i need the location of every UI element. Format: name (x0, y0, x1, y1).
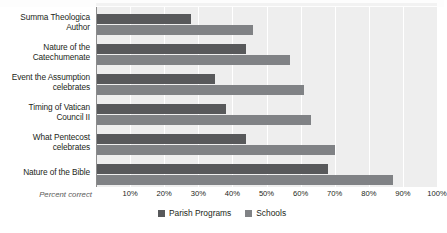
category-label-line: Nature of the (0, 42, 90, 52)
x-tick-label: 80% (361, 189, 376, 198)
title-band-sliver (96, 3, 437, 6)
category-label: Nature of the Bible (0, 167, 90, 177)
category-label: Event the Assumptioncelebrates (0, 72, 90, 92)
bar (96, 175, 393, 185)
category-label: Summa TheologicaAuthor (0, 12, 90, 32)
bar (96, 25, 253, 35)
category-label-line: Nature of the Bible (0, 167, 90, 177)
x-tick-label: 70% (327, 189, 342, 198)
category-label-line: celebrates (0, 142, 90, 152)
bar (96, 44, 246, 54)
legend-label: Parish Programs (169, 208, 231, 218)
category-label-line: What Pentecost (0, 132, 90, 142)
x-tick-label: 90% (395, 189, 410, 198)
y-axis-line (96, 7, 97, 187)
x-tick-label: 10% (122, 189, 137, 198)
gridline (437, 7, 438, 187)
category-label-line: Timing of Vatican (0, 102, 90, 112)
category-axis-labels: Summa TheologicaAuthorNature of theCatec… (0, 7, 90, 187)
bar-group (96, 67, 437, 97)
bar-group (96, 7, 437, 37)
category-label-line: Author (0, 22, 90, 32)
category-label: Nature of theCatechumenate (0, 42, 90, 62)
x-tick-label: 40% (225, 189, 240, 198)
legend-label: Schools (256, 208, 286, 218)
category-label: What Pentecostcelebrates (0, 132, 90, 152)
bar (96, 145, 335, 155)
legend-item[interactable]: Schools (245, 208, 286, 218)
plot-area (96, 7, 437, 187)
x-tick-label: 30% (191, 189, 206, 198)
bar (96, 85, 304, 95)
category-label-line: Catechumenate (0, 52, 90, 62)
legend-swatch-icon (245, 210, 252, 217)
bar (96, 104, 226, 114)
legend-item[interactable]: Parish Programs (158, 208, 231, 218)
x-tick-label: 50% (259, 189, 274, 198)
bar (96, 115, 311, 125)
bar (96, 14, 191, 24)
legend-swatch-icon (158, 210, 165, 217)
bar-group (96, 97, 437, 127)
bar (96, 74, 215, 84)
category-label-line: Summa Theologica (0, 12, 90, 22)
bar (96, 134, 246, 144)
chart-legend: Parish ProgramsSchools (0, 208, 444, 218)
bar-group (96, 127, 437, 157)
category-label-line: Council II (0, 112, 90, 122)
x-tick-label: 20% (157, 189, 172, 198)
cropped-title-band (0, 0, 444, 7)
x-tick-label: 100% (427, 189, 446, 198)
bar (96, 164, 328, 174)
category-label: Timing of VaticanCouncil II (0, 102, 90, 122)
bar-group (96, 157, 437, 187)
bar (96, 55, 290, 65)
category-label-line: celebrates (0, 82, 90, 92)
bar-group (96, 37, 437, 67)
category-label-line: Event the Assumption (0, 72, 90, 82)
x-axis-title: Percent correct (30, 190, 92, 199)
x-tick-label: 60% (293, 189, 308, 198)
